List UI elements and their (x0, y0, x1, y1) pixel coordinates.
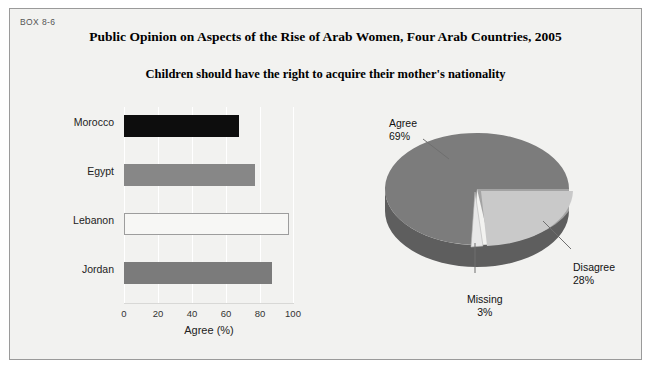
pie-chart: Agree 69% Disagree 28% Missing 3% (355, 105, 635, 325)
pie-label-missing-value: 3% (467, 306, 503, 319)
bar-label-egypt: Egypt (40, 165, 114, 177)
x-tick-80: 80 (255, 308, 266, 319)
pie-label-agree-text: Agree (389, 117, 417, 130)
bar-label-morocco: Morocco (40, 116, 114, 128)
pie-label-agree: Agree 69% (389, 117, 417, 143)
pie-stage: Agree 69% Disagree 28% Missing 3% (375, 123, 590, 273)
page-title: Public Opinion on Aspects of the Rise of… (10, 29, 641, 45)
bar-egypt (124, 164, 255, 186)
x-tick-60: 60 (221, 308, 232, 319)
pie-label-missing-text: Missing (467, 293, 503, 306)
chart-subtitle: Children should have the right to acquir… (10, 67, 641, 82)
x-tick-100: 100 (285, 308, 301, 319)
bar-row-lebanon: Lebanon (40, 205, 330, 245)
pie-svg (375, 123, 590, 273)
bar-chart: Morocco Egypt Lebanon Jordan 0 (40, 105, 330, 340)
pie-label-missing: Missing 3% (467, 293, 503, 319)
bar-lebanon (124, 213, 289, 235)
pie-label-disagree: Disagree 28% (573, 261, 615, 287)
pie-label-disagree-text: Disagree (573, 261, 615, 274)
x-axis-tick-labels: 0 20 40 60 80 100 (124, 308, 294, 324)
x-tick-20: 20 (153, 308, 164, 319)
bar-row-jordan: Jordan (40, 254, 330, 294)
x-tick-40: 40 (187, 308, 198, 319)
bar-track-egypt (124, 156, 294, 196)
bar-morocco (124, 115, 239, 137)
figure-panel: BOX 8-6 Public Opinion on Aspects of the… (9, 8, 642, 360)
bar-track-jordan (124, 254, 294, 294)
x-axis-line (124, 303, 294, 304)
bar-label-jordan: Jordan (40, 263, 114, 275)
bar-row-egypt: Egypt (40, 156, 330, 196)
bar-track-morocco (124, 107, 294, 147)
x-axis-title: Agree (%) (124, 324, 294, 336)
x-tick-0: 0 (121, 308, 126, 319)
pie-label-agree-value: 69% (389, 130, 417, 143)
bar-row-morocco: Morocco (40, 107, 330, 147)
pie-label-disagree-value: 28% (573, 274, 615, 287)
bar-track-lebanon (124, 205, 294, 245)
box-label: BOX 8-6 (20, 17, 55, 27)
bar-jordan (124, 262, 272, 284)
bar-label-lebanon: Lebanon (40, 214, 114, 226)
